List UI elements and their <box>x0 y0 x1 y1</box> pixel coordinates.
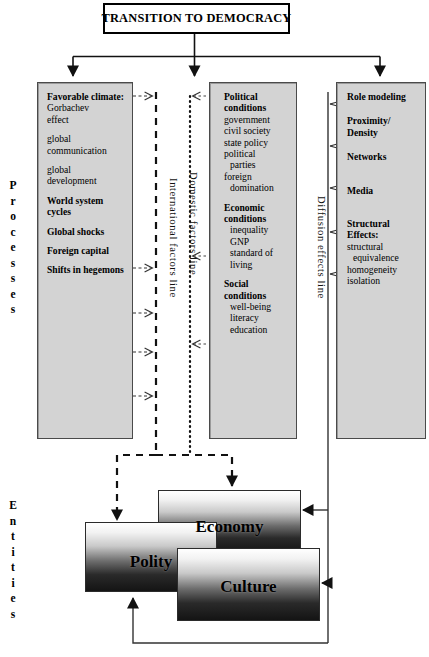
group-item: political <box>224 148 290 159</box>
process-box-international-factors: Favorable climate: Gorbachev effect glob… <box>37 82 133 439</box>
group-item: isolation <box>347 275 420 286</box>
group-item: education <box>224 324 290 335</box>
group-structural-effects: Structural Effects: structural equivalen… <box>347 218 420 286</box>
diagram-canvas: TRANSITION TO DEMOCRACY Processes Entiti… <box>0 0 429 657</box>
group-heading: Global shocks <box>47 226 126 237</box>
group-role-modeling: Role modeling <box>347 91 420 102</box>
page-title: TRANSITION TO DEMOCRACY <box>103 3 290 34</box>
group-item: living <box>224 259 290 270</box>
group-global-shocks: Global shocks <box>47 226 126 237</box>
group-item: parties <box>224 159 290 170</box>
group-economic-conditions: Economic conditions inequality GNP stand… <box>224 202 290 270</box>
group-item: development <box>47 175 126 186</box>
group-item: global <box>47 164 126 175</box>
group-heading: Proximity/ Density <box>347 115 420 138</box>
group-proximity-density: Proximity/ Density <box>347 115 420 138</box>
group-networks: Networks <box>347 151 420 162</box>
margin-label-entities: Entities <box>2 498 24 622</box>
group-heading: Economic conditions <box>224 202 290 225</box>
group-heading: Structural Effects: <box>347 218 420 241</box>
group-favorable-climate: Favorable climate: Gorbachev effect <box>47 91 126 125</box>
group-item: Gorbachev <box>47 102 126 113</box>
group-item: literacy <box>224 312 290 323</box>
entity-label: Culture <box>220 577 276 597</box>
group-item: inequality <box>224 224 290 235</box>
group-item: standard of <box>224 247 290 258</box>
group-item: domination <box>224 182 290 193</box>
group-heading: Political conditions <box>224 91 290 114</box>
group-foreign-capital: Foreign capital <box>47 245 126 256</box>
group-political-conditions: Political conditions government civil so… <box>224 91 290 194</box>
group-heading: World system cycles <box>47 195 126 218</box>
entity-box-culture: Culture <box>177 548 320 621</box>
group-heading: Foreign capital <box>47 245 126 256</box>
group-item: state policy <box>224 137 290 148</box>
group-item: well-being <box>224 301 290 312</box>
group-shifts-in-hegemons: Shifts in hegemons <box>47 264 126 275</box>
entity-label: Polity <box>130 552 173 572</box>
domestic-factors-line <box>190 96 206 455</box>
axis-label-international-factors-line: International factors line <box>168 178 179 298</box>
group-heading: Favorable climate: <box>47 91 126 102</box>
group-social-conditions: Social conditions well-being literacy ed… <box>224 278 290 335</box>
group-item: government <box>224 114 290 125</box>
group-item: civil society <box>224 125 290 136</box>
group-heading: Media <box>347 185 420 196</box>
axis-label-domestic-factors-line: Domestic factors line <box>188 172 199 275</box>
entity-label: Economy <box>196 517 264 537</box>
group-heading: Networks <box>347 151 420 162</box>
margin-label-processes: Processes <box>2 178 24 318</box>
title-distribution-lines <box>73 31 380 76</box>
group-world-system-cycles: World system cycles <box>47 195 126 218</box>
group-item: foreign <box>224 171 290 182</box>
group-item: structural <box>347 241 420 252</box>
group-item: communication <box>47 145 126 156</box>
process-box-domestic-factors: Political conditions government civil so… <box>209 82 297 439</box>
process-box-diffusion-effects: Role modeling Proximity/ Density Network… <box>336 82 426 439</box>
group-item: GNP <box>224 236 290 247</box>
group-heading: Shifts in hegemons <box>47 264 126 275</box>
group-heading: Role modeling <box>347 91 420 102</box>
group-media: Media <box>347 185 420 196</box>
group-heading: Social conditions <box>224 278 290 301</box>
group-global-communication: global communication <box>47 133 126 156</box>
group-global-development: global development <box>47 164 126 187</box>
group-item: equivalence <box>347 252 420 263</box>
group-item: homogeneity <box>347 264 420 275</box>
group-item: effect <box>47 114 126 125</box>
axis-label-diffusion-effects-line: Diffusion effects line <box>316 196 327 299</box>
group-item: global <box>47 133 126 144</box>
